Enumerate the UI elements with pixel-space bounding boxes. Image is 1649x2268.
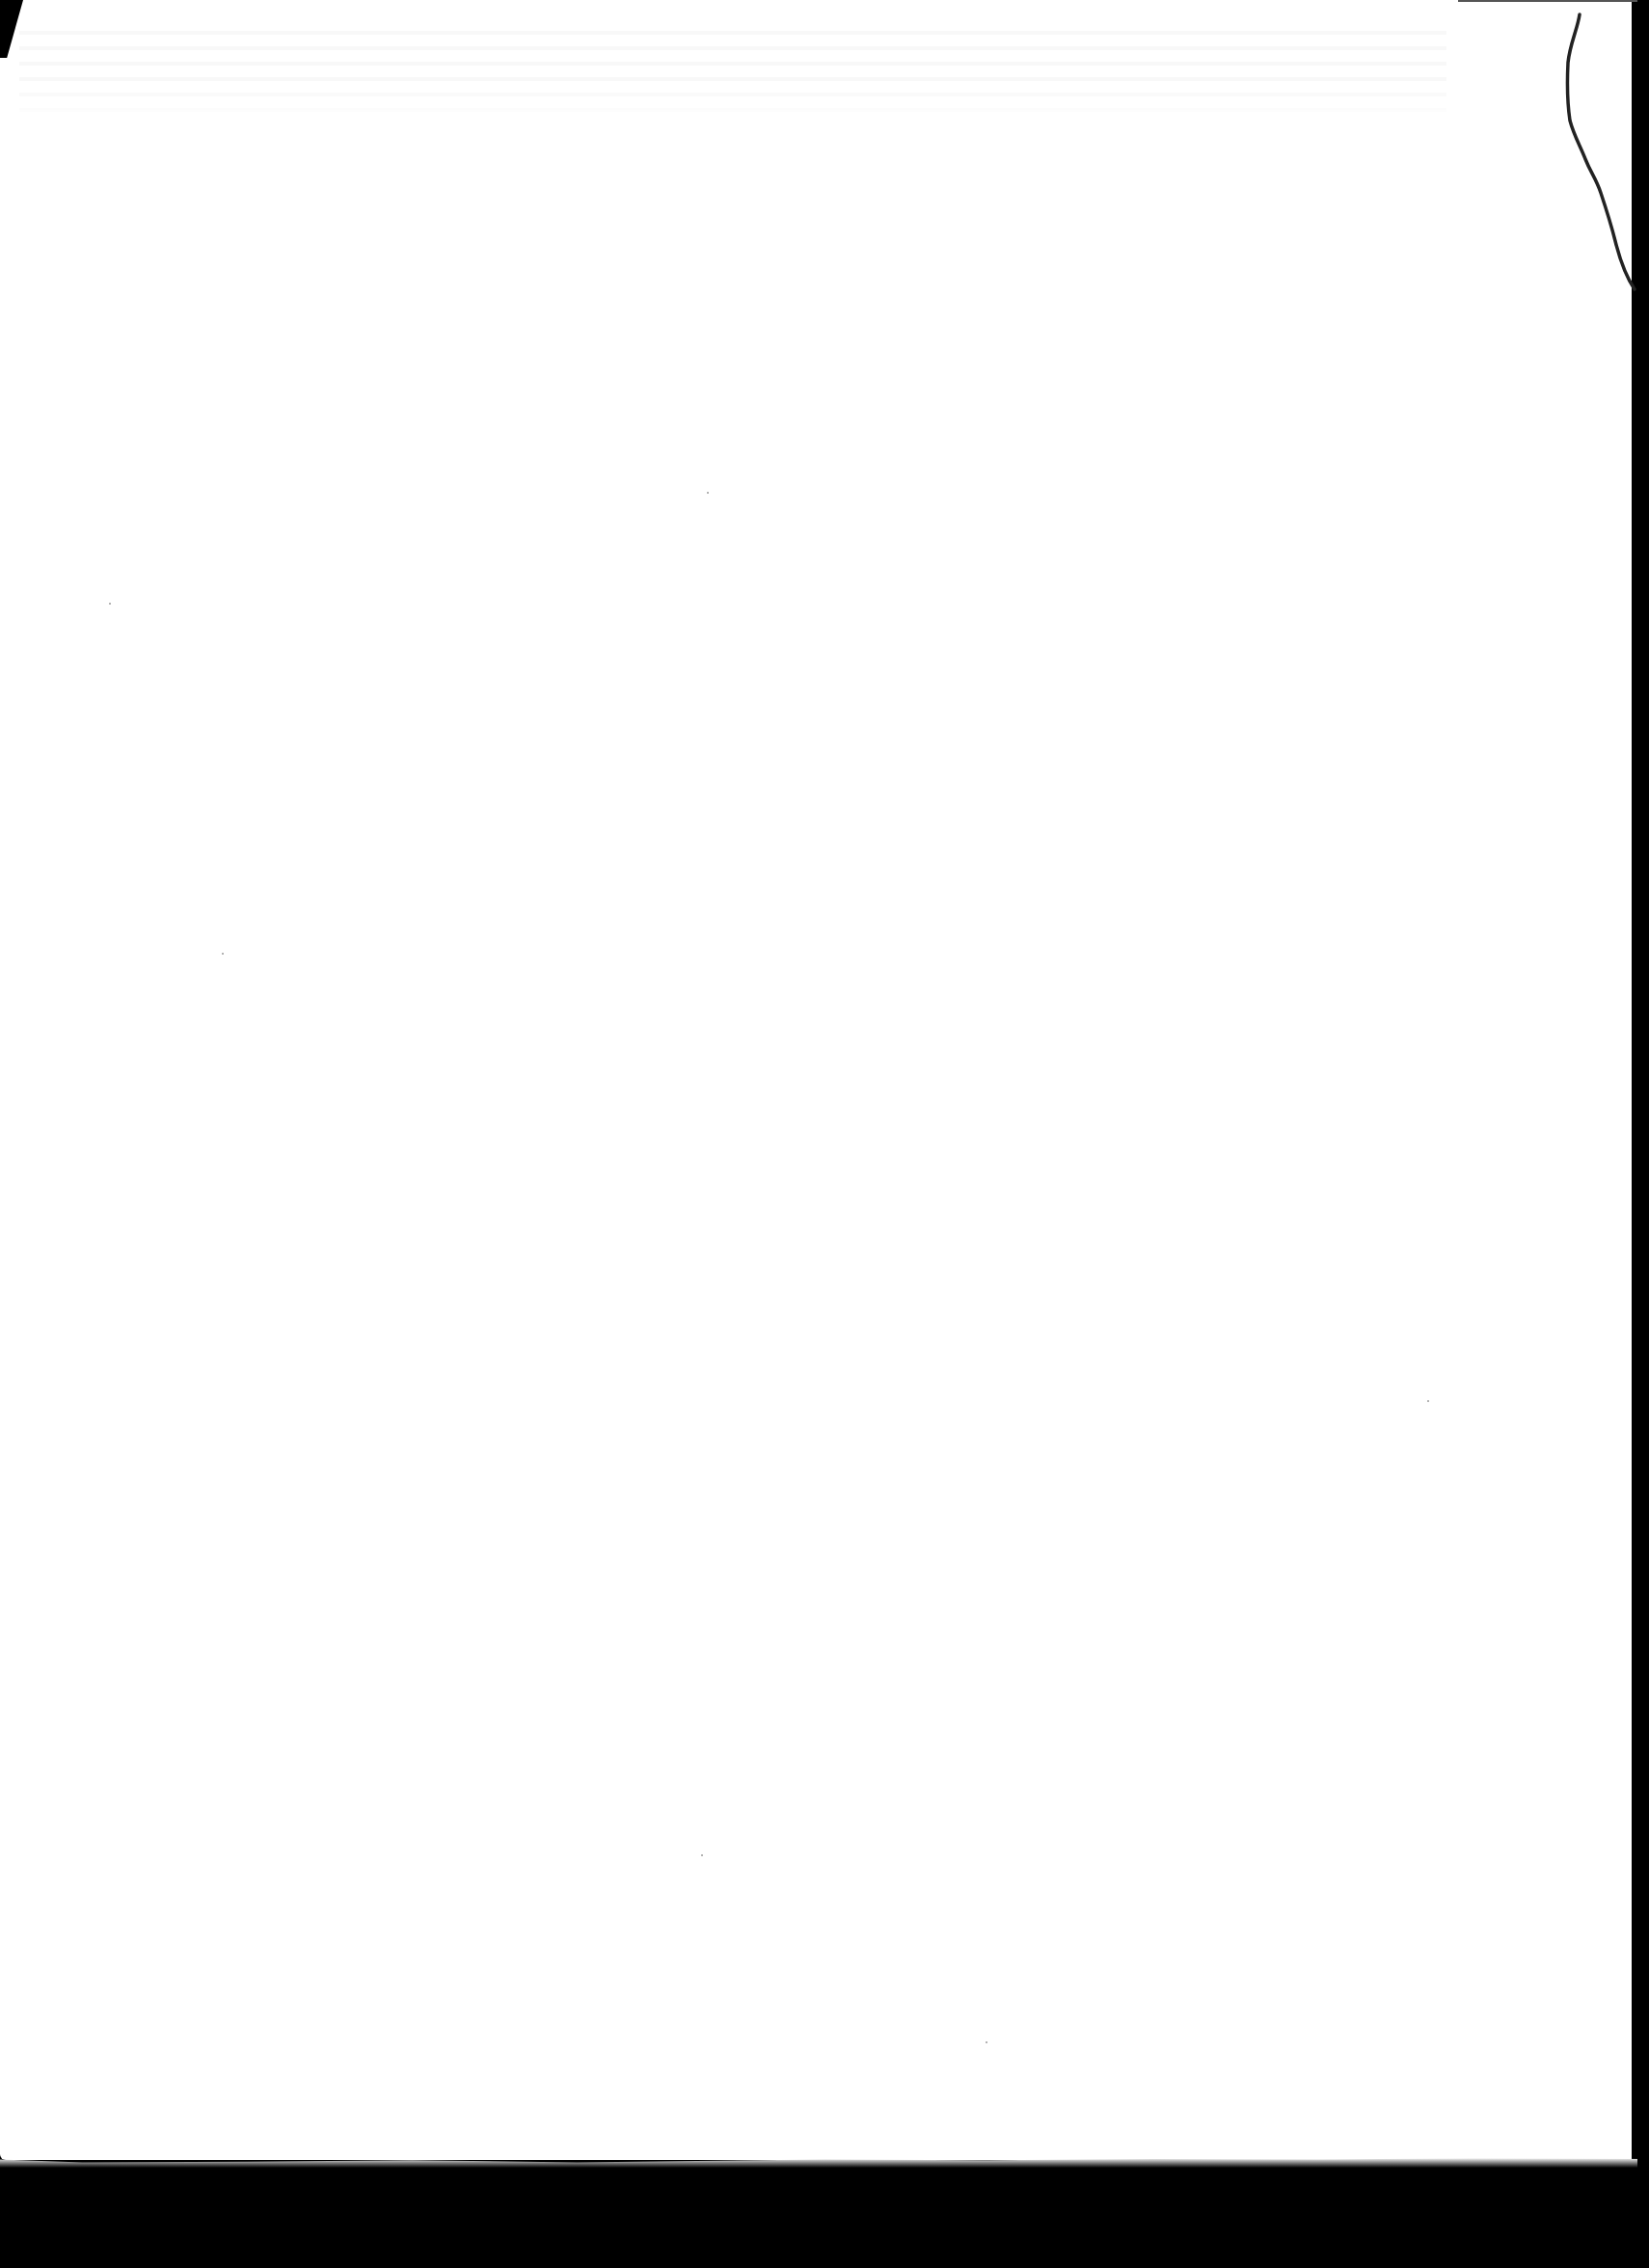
reverse-side-show-through xyxy=(19,19,1446,125)
top-edge-strip xyxy=(1458,0,1637,2)
dust-speck xyxy=(701,1854,703,1856)
dust-speck xyxy=(222,953,224,955)
dust-speck xyxy=(707,492,709,494)
dust-speck xyxy=(1427,1400,1429,1402)
page-right-edge xyxy=(1637,0,1649,2170)
dust-speck xyxy=(986,2041,987,2043)
paper-crack-line xyxy=(1543,10,1639,299)
dust-speck xyxy=(109,603,111,605)
blank-page-sheet xyxy=(0,0,1632,2160)
